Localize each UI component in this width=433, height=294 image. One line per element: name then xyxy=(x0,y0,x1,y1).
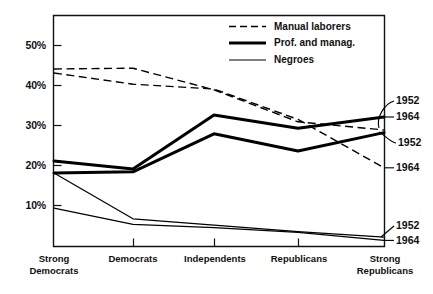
legend-label-negroes: Negroes xyxy=(274,54,314,65)
annotation-year-manual-1964: 1964 xyxy=(396,161,419,173)
legend-label-manual-laborers: Manual laborers xyxy=(274,21,351,32)
annotation-year-prof-1952: 1952 xyxy=(398,136,421,148)
xtick-label-strong-democrats: Strong Democrats xyxy=(12,253,96,277)
plot-frame xyxy=(54,16,385,247)
ytick-label-30: 30% xyxy=(8,119,46,131)
ytick-label-10: 10% xyxy=(8,199,46,211)
x-axis-ticks xyxy=(134,239,299,247)
series-negroes-1964 xyxy=(54,208,384,240)
annotation-leaders xyxy=(378,101,396,240)
xtick-label-republicans: Republicans xyxy=(256,253,342,265)
annotation-year-negroes-1952: 1952 xyxy=(396,219,419,231)
series-manual-laborers-1952 xyxy=(54,68,384,130)
annotation-year-prof-1964: 1964 xyxy=(396,110,419,122)
legend-label-prof-manag: Prof. and manag. xyxy=(274,37,355,48)
chart-plot-area xyxy=(0,0,433,294)
xtick-label-democrats: Democrats xyxy=(91,253,175,265)
xtick-label-independents: Independents xyxy=(171,253,259,265)
ytick-label-20: 20% xyxy=(8,159,46,171)
chart-container: 50% 40% 30% 20% 10% Strong Democrats Dem… xyxy=(0,0,433,294)
annotation-year-negroes-1964: 1964 xyxy=(396,234,419,246)
ytick-label-50: 50% xyxy=(8,39,46,51)
annotation-year-manual-1952: 1952 xyxy=(396,94,419,106)
xtick-label-strong-republicans: Strong Republicans xyxy=(340,253,430,277)
series-manual-laborers-1964 xyxy=(54,73,384,168)
ytick-label-40: 40% xyxy=(8,79,46,91)
